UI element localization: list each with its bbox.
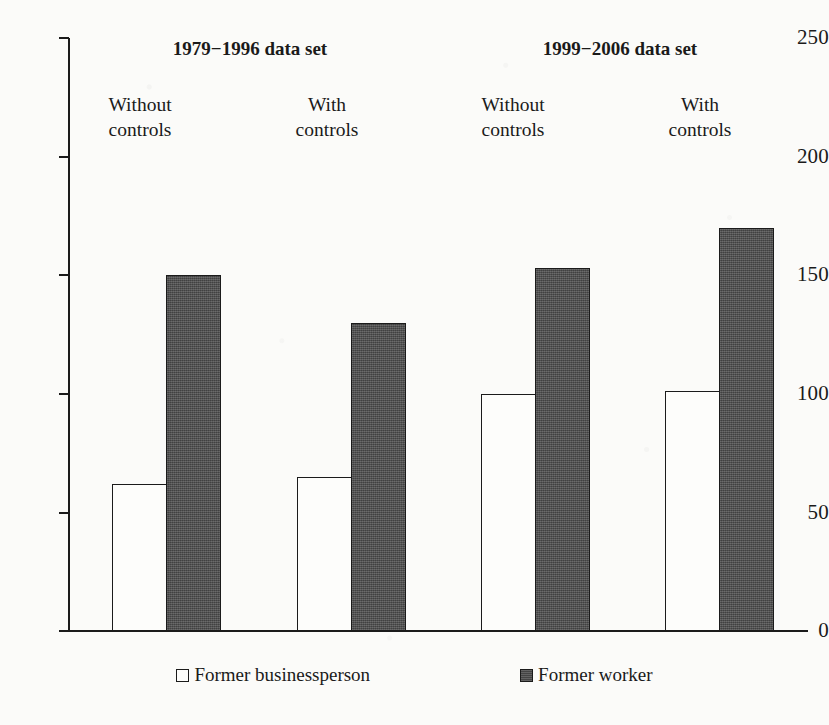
y-tick-label-50: 50 xyxy=(777,502,829,523)
chart-page: 1979−1996 data set 1999−2006 data set Wi… xyxy=(0,0,829,725)
bar-group3-former-worker xyxy=(535,268,590,631)
legend-swatch-light-icon xyxy=(176,669,189,682)
bar-group1-former-businessperson xyxy=(112,484,167,631)
y-tick-label-250: 250 xyxy=(777,27,829,48)
y-tick-mark-50 xyxy=(59,512,69,514)
y-tick-mark-0 xyxy=(59,630,69,632)
legend-label-former-businessperson: Former businessperson xyxy=(194,664,370,686)
y-tick-label-200: 200 xyxy=(777,146,829,167)
y-tick-label-150: 150 xyxy=(777,264,829,285)
y-tick-mark-200 xyxy=(59,156,69,158)
legend-item-former-businessperson: Former businessperson xyxy=(176,664,370,686)
chart-legend: Former businessperson Former worker xyxy=(0,664,829,686)
y-tick-label-100: 100 xyxy=(777,383,829,404)
y-tick-mark-250 xyxy=(59,37,69,39)
legend-item-former-worker: Former worker xyxy=(520,664,653,686)
plot-area: 250 200 150 100 50 0 xyxy=(0,0,829,725)
bar-group2-former-businessperson xyxy=(297,477,352,631)
legend-label-former-worker: Former worker xyxy=(538,664,653,686)
y-axis-line xyxy=(68,38,70,632)
bar-group4-former-worker xyxy=(719,228,774,631)
bar-group2-former-worker xyxy=(351,323,406,631)
bar-group4-former-businessperson xyxy=(665,391,720,631)
y-tick-mark-150 xyxy=(59,274,69,276)
y-tick-label-0: 0 xyxy=(777,620,829,641)
y-tick-mark-100 xyxy=(59,393,69,395)
legend-swatch-dark-icon xyxy=(520,669,533,682)
bar-group3-former-businessperson xyxy=(481,394,536,631)
bar-group1-former-worker xyxy=(166,275,221,631)
